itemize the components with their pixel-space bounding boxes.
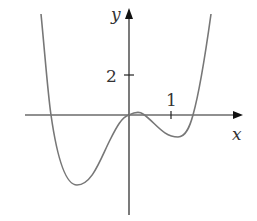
y-axis-arrow-icon xyxy=(125,8,133,19)
x-tick-label: 1 xyxy=(166,90,177,110)
y-axis-label: y xyxy=(110,4,121,24)
x-axis-arrow-icon xyxy=(233,111,243,119)
function-curve xyxy=(41,14,211,185)
y-tick-label: 2 xyxy=(106,66,117,86)
function-graph: y x 2 1 xyxy=(0,0,257,221)
x-axis-label: x xyxy=(232,124,242,144)
